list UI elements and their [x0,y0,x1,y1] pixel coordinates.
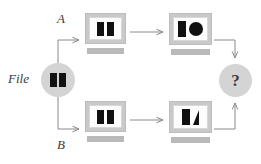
node-source-file[interactable] [41,63,75,97]
rectangle-shape [178,21,186,37]
edge-top-2-to-result [214,40,235,58]
branch-label-a: A [57,12,65,25]
circle-shape [189,22,203,36]
monitor-frame [85,101,126,132]
rectangle-shape [107,22,114,36]
monitor-screen [173,17,208,41]
node-result-unknown[interactable]: ? [219,64,252,97]
node-top-screen-1[interactable] [85,13,126,54]
monitor-base [87,48,124,54]
monitor-base [171,49,210,55]
bar-shape [59,73,66,87]
node-bottom-screen-1[interactable] [85,101,126,142]
rectangle-shape [97,22,104,36]
rectangle-shape [107,110,114,124]
monitor-base [87,136,124,142]
monitor-screen [173,105,208,129]
node-bottom-screen-2[interactable] [169,101,212,143]
monitor-base [171,137,210,143]
rectangle-shape [182,109,190,125]
monitor-screen [89,17,122,40]
edge-bottom-2-to-result [214,103,235,129]
bar-shape [50,73,57,87]
edge-source-to-b [58,97,79,129]
monitor-screen [89,105,122,128]
monitor-frame [85,13,126,44]
monitor-frame [169,13,212,45]
question-mark-label: ? [231,72,240,89]
two-bars-icon [50,73,66,87]
node-top-screen-2[interactable] [169,13,212,55]
diagram-canvas: A B File [0,0,261,164]
source-label-file: File [8,72,29,85]
rectangle-shape [97,110,104,124]
edge-source-to-a [58,40,79,63]
monitor-frame [169,101,212,133]
triangle-shape [193,110,199,125]
branch-label-b: B [57,138,65,151]
